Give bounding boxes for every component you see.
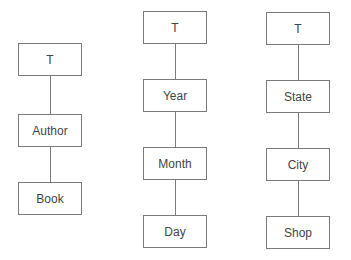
node-month: Month bbox=[143, 147, 207, 180]
node-t: T bbox=[143, 11, 207, 44]
edge bbox=[175, 112, 176, 147]
edge bbox=[298, 45, 299, 80]
node-shop: Shop bbox=[266, 216, 330, 249]
node-t: T bbox=[18, 43, 82, 76]
node-city: City bbox=[266, 148, 330, 181]
edge bbox=[175, 44, 176, 79]
node-day: Day bbox=[143, 215, 207, 248]
edge bbox=[298, 113, 299, 148]
node-author: Author bbox=[18, 114, 82, 147]
edge bbox=[50, 147, 51, 182]
node-book: Book bbox=[18, 182, 82, 215]
edge bbox=[50, 76, 51, 114]
edge bbox=[298, 181, 299, 216]
node-t: T bbox=[266, 12, 330, 45]
node-state: State bbox=[266, 80, 330, 113]
edge bbox=[175, 180, 176, 215]
node-year: Year bbox=[143, 79, 207, 112]
